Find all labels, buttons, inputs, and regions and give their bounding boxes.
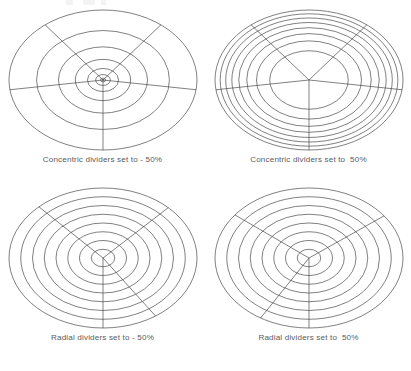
caption-radial-positive: Radial dividers set to 50%	[206, 332, 411, 343]
panel-radial-negative: Radial dividers set to - 50%	[0, 182, 205, 367]
caption-concentric-positive: Concentric dividers set to 50%	[206, 154, 411, 165]
panel-concentric-negative: Concentric dividers set to - 50%	[0, 4, 205, 189]
figure-sheet: Concentric dividers set to - 50% Concent…	[0, 0, 411, 371]
polar-grid-radial-negative	[0, 182, 205, 334]
polar-grid-concentric-positive	[206, 4, 411, 156]
panel-radial-positive: Radial dividers set to 50%	[206, 182, 411, 367]
caption-concentric-negative: Concentric dividers set to - 50%	[0, 154, 205, 165]
polar-grid-concentric-negative	[0, 4, 205, 156]
polar-grid-radial-positive	[206, 182, 411, 334]
panel-concentric-positive: Concentric dividers set to 50%	[206, 4, 411, 189]
caption-radial-negative: Radial dividers set to - 50%	[0, 332, 205, 343]
